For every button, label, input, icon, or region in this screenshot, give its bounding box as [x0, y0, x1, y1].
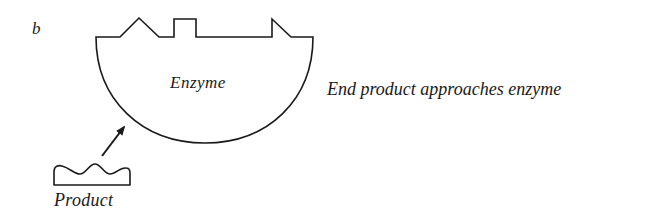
caption-text: End product approaches enzyme	[327, 80, 561, 98]
panel-label: b	[32, 20, 41, 37]
enzyme-inhibition-figure: b Enzyme End product approaches enzyme P…	[0, 0, 665, 221]
product-shape	[54, 164, 130, 185]
enzyme-label: Enzyme	[170, 74, 226, 91]
product-label: Product	[54, 191, 113, 209]
diagram-canvas	[0, 0, 665, 221]
approach-arrow	[102, 127, 124, 156]
